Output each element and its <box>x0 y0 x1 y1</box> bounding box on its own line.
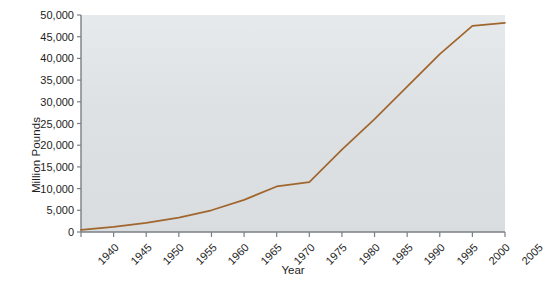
y-tick-label: 10,000 <box>22 183 74 195</box>
y-tick-label: 30,000 <box>22 96 74 108</box>
x-axis-ticks <box>81 232 505 237</box>
y-tick-label: 40,000 <box>22 52 74 64</box>
y-tick-label: 5,000 <box>22 204 74 216</box>
x-axis-title: Year <box>81 264 505 276</box>
y-tick-label: 45,000 <box>22 31 74 43</box>
y-tick-label: 15,000 <box>22 161 74 173</box>
y-tick-label: 35,000 <box>22 74 74 86</box>
y-tick-label: 25,000 <box>22 118 74 130</box>
y-tick-label: 0 <box>22 226 74 238</box>
y-axis-tick-labels: 05,00010,00015,00020,00025,00030,00035,0… <box>18 0 74 284</box>
plot-area-background <box>81 15 505 232</box>
y-tick-label: 50,000 <box>22 9 74 21</box>
y-tick-label: 20,000 <box>22 139 74 151</box>
